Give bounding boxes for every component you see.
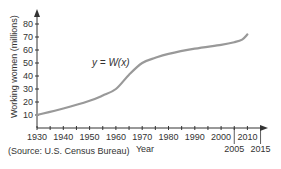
y-tick-label: 20 <box>23 97 33 107</box>
function-label: y = W(x) <box>91 57 130 68</box>
x-tick-label: 1980 <box>158 132 178 142</box>
y-axis-label: Working women (millions) <box>9 15 19 118</box>
x-tick-label: 2005 <box>224 144 244 154</box>
y-tick-label: 10 <box>23 110 33 120</box>
x-tick-label: 1950 <box>80 132 100 142</box>
x-tick-label: 1940 <box>53 132 73 142</box>
x-tick-label: 2015 <box>251 144 271 154</box>
x-axis-label: Year <box>136 144 154 154</box>
y-tick-label: 70 <box>23 32 33 42</box>
data-curve <box>37 34 247 115</box>
y-tick-label: 30 <box>23 84 33 94</box>
y-tick-label: 50 <box>23 58 33 68</box>
x-tick-label: 1970 <box>132 132 152 142</box>
source-note: (Source: U.S. Census Bureau) <box>8 146 130 156</box>
x-tick-label: 1930 <box>27 132 47 142</box>
x-tick-label: 1960 <box>106 132 126 142</box>
chart: 1020304050607080193019401950196019701980… <box>0 0 281 169</box>
x-tick-label: 2000 <box>211 132 231 142</box>
x-tick-label: 2010 <box>237 132 257 142</box>
y-tick-label: 60 <box>23 45 33 55</box>
y-tick-label: 80 <box>23 19 33 29</box>
axes: 1020304050607080193019401950196019701980… <box>23 9 271 154</box>
x-tick-label: 1990 <box>185 132 205 142</box>
y-tick-label: 40 <box>23 71 33 81</box>
